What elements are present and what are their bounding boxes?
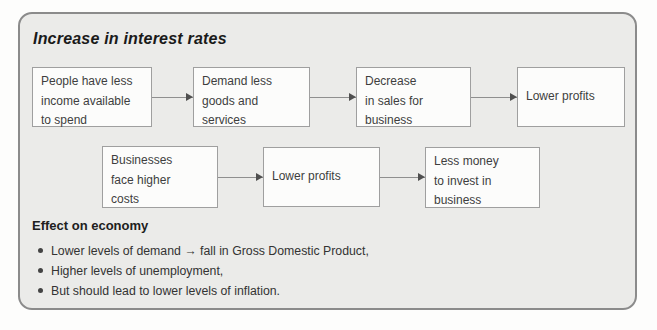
flow-box-text: People have less income available to spe…: [41, 72, 143, 131]
figure-title: Increase in interest rates: [33, 30, 227, 48]
bullet-text: Lower levels of demand → fall in Gross D…: [51, 241, 369, 261]
bullet-icon: [38, 268, 43, 273]
list-item: Higher levels of unemployment,: [32, 261, 369, 281]
flow-box-text: Businesses face higher costs: [111, 151, 209, 210]
flow-box-text: Less money to invest in business: [434, 152, 531, 211]
list-item: Lower levels of demand → fall in Gross D…: [32, 241, 369, 261]
effects-list: Lower levels of demand → fall in Gross D…: [32, 241, 369, 301]
flow-arrow-icon: [471, 97, 517, 98]
flow-arrow-icon: [152, 97, 193, 98]
flow-box-lower-profits-1: Lower profits: [517, 67, 625, 127]
figure-panel: Increase in interest rates People have l…: [18, 12, 637, 310]
flow-box-demand-less: Demand less goods and services: [193, 67, 310, 127]
flow-box-lower-profits-2: Lower profits: [263, 147, 380, 207]
flow-arrow-icon: [310, 97, 356, 98]
flow-box-less-income: People have less income available to spe…: [32, 67, 152, 127]
list-item: But should lead to lower levels of infla…: [32, 281, 369, 301]
bullet-icon: [38, 288, 43, 293]
flow-box-text: Lower profits: [526, 87, 595, 107]
effects-heading: Effect on economy: [32, 218, 148, 233]
bullet-text: But should lead to lower levels of infla…: [51, 281, 280, 301]
bullet-icon: [38, 248, 43, 253]
flow-arrow-icon: [218, 177, 263, 178]
flow-box-less-investment: Less money to invest in business: [425, 147, 540, 208]
flow-box-text: Decrease in sales for business: [365, 72, 462, 131]
flow-box-higher-costs: Businesses face higher costs: [102, 146, 218, 208]
flow-box-text: Demand less goods and services: [202, 72, 301, 131]
flow-box-decrease-sales: Decrease in sales for business: [356, 67, 471, 127]
flow-box-text: Lower profits: [272, 167, 341, 187]
flow-arrow-icon: [380, 177, 425, 178]
bullet-text: Higher levels of unemployment,: [51, 261, 223, 281]
